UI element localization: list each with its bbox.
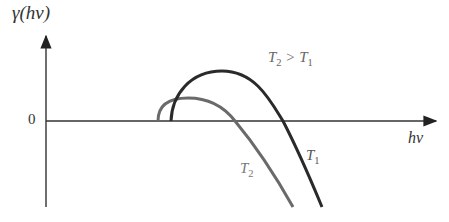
curve-t1-label: T1 [306, 147, 320, 166]
y-axis-label: γ(hν) [12, 2, 50, 24]
curve-t2-label: T2 [240, 160, 254, 179]
x-axis-label: hν [408, 129, 423, 147]
diagram-canvas [0, 0, 449, 222]
curve-t2 [158, 98, 293, 207]
condition-annotation: T2 > T1 [268, 49, 313, 68]
zero-tick-label: 0 [28, 111, 36, 128]
curve-t1 [171, 71, 322, 207]
